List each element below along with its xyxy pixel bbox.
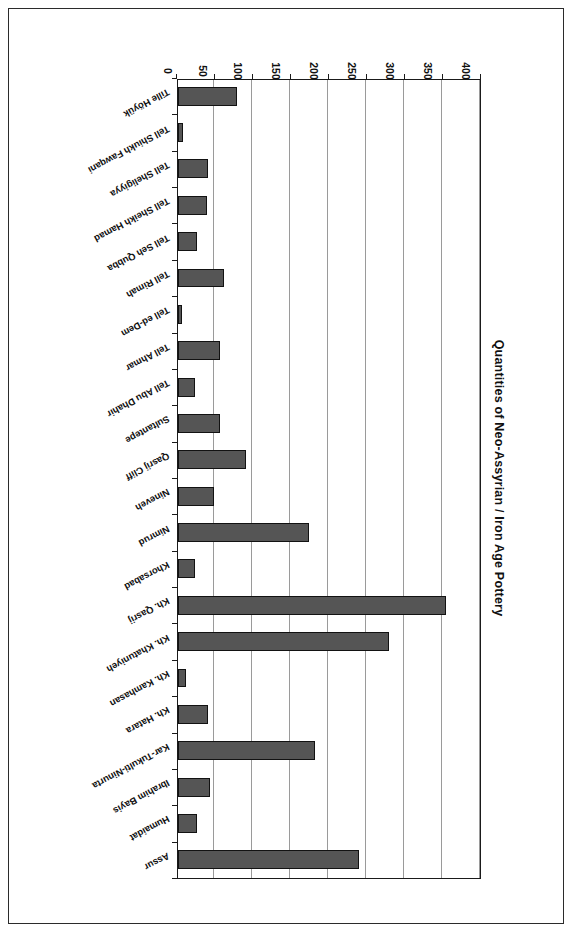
bar xyxy=(178,705,208,724)
bar xyxy=(178,159,208,178)
category-axis-tick xyxy=(172,260,177,261)
value-axis-tick-label: 350 xyxy=(422,62,434,80)
bar xyxy=(178,487,214,506)
category-axis-label: Assur xyxy=(143,850,172,872)
bar-row xyxy=(178,87,480,106)
category-axis-tick xyxy=(172,660,177,661)
bar-chart: Quantities of Neo-Assyrian / Iron Age Po… xyxy=(19,19,555,915)
category-axis-label: Humaidat xyxy=(128,814,171,844)
category-axis-label: Tell Rimah xyxy=(125,269,172,301)
category-axis-tick xyxy=(172,805,177,806)
value-axis-tick-label: 150 xyxy=(270,62,282,80)
bar xyxy=(178,378,195,397)
category-axis-label: Tell Ahmar xyxy=(124,341,172,373)
bars-layer xyxy=(178,80,480,878)
bar-row xyxy=(178,450,480,469)
value-axis-tick-label: 0 xyxy=(162,68,174,74)
bar xyxy=(178,414,220,433)
bar-row xyxy=(178,196,480,215)
category-axis-tick xyxy=(172,478,177,479)
category-axis-label: Tell Seh Qubba xyxy=(106,232,172,274)
category-axis-label: Tell ed-Dem xyxy=(119,305,171,340)
figure-rotator: Quantities of Neo-Assyrian / Iron Age Po… xyxy=(19,19,555,915)
bar-row xyxy=(178,596,480,615)
value-axis-tick xyxy=(214,74,215,79)
category-axis-label: Tille Höyük xyxy=(122,87,172,120)
category-axis-tick xyxy=(172,587,177,588)
category-axis-tick xyxy=(172,514,177,515)
bar xyxy=(178,341,220,360)
category-axis-label: Kh. Kamhasan xyxy=(108,669,171,710)
value-axis: 050100150200250300350400 xyxy=(177,33,481,79)
page-frame: Quantities of Neo-Assyrian / Iron Age Po… xyxy=(8,8,564,924)
bar-row xyxy=(178,487,480,506)
bar-row xyxy=(178,741,480,760)
bar xyxy=(178,741,315,760)
category-axis-label: Kh. Hatara xyxy=(124,705,171,737)
category-axis-tick xyxy=(172,151,177,152)
value-axis-tick xyxy=(404,74,405,79)
bar-row xyxy=(178,632,480,651)
value-axis-tick xyxy=(366,74,367,79)
value-axis-tick-label: 250 xyxy=(346,62,358,80)
category-axis-tick xyxy=(172,333,177,334)
bar-row xyxy=(178,269,480,288)
bar-row xyxy=(178,378,480,397)
plot-area xyxy=(177,79,481,879)
category-axis-tick xyxy=(172,223,177,224)
category-axis-label: Nineveh xyxy=(134,487,172,514)
category-axis-tick xyxy=(172,369,177,370)
category-axis-tick xyxy=(172,696,177,697)
category-axis-label: Qasrij Cliff xyxy=(124,450,172,482)
bar xyxy=(178,523,309,542)
category-axis-tick xyxy=(172,623,177,624)
bar-row xyxy=(178,814,480,833)
bar xyxy=(178,87,237,106)
category-axis-tick xyxy=(172,405,177,406)
value-axis-tick xyxy=(480,74,481,79)
category-axis-label: Sultantepe xyxy=(124,414,172,447)
bar-row xyxy=(178,523,480,542)
bar-row xyxy=(178,414,480,433)
bar xyxy=(178,778,210,797)
bar-row xyxy=(178,232,480,251)
category-axis-tick xyxy=(172,187,177,188)
value-axis-tick xyxy=(290,74,291,79)
category-axis-tick xyxy=(172,78,177,79)
bar xyxy=(178,269,224,288)
value-axis-tick-label: 50 xyxy=(197,65,209,77)
value-axis-tick-label: 400 xyxy=(460,62,472,80)
bar-row xyxy=(178,850,480,869)
category-axis-label: Kh. Qasrij xyxy=(127,596,172,627)
bar xyxy=(178,232,197,251)
bar xyxy=(178,669,186,688)
category-axis-tick xyxy=(172,442,177,443)
bar-row xyxy=(178,305,480,324)
bar-row xyxy=(178,778,480,797)
bar-row xyxy=(178,159,480,178)
category-axis-label: Ibrahim Bayis xyxy=(111,778,171,817)
category-axis-tick xyxy=(172,296,177,297)
category-axis-tick xyxy=(172,733,177,734)
category-axis-tick xyxy=(172,878,177,879)
bar xyxy=(178,196,207,215)
bar-row xyxy=(178,669,480,688)
bar-row xyxy=(178,705,480,724)
value-axis-tick xyxy=(252,74,253,79)
bar xyxy=(178,559,195,578)
bar xyxy=(178,814,197,833)
category-axis-tick xyxy=(172,551,177,552)
category-axis: AssurHumaidatIbrahim BayisKar-Tukulti-Ni… xyxy=(21,79,177,879)
bar-row xyxy=(178,559,480,578)
category-axis-tick xyxy=(172,114,177,115)
category-axis-tick xyxy=(172,842,177,843)
category-axis-label: Nimrud xyxy=(137,523,172,548)
category-axis-label: Tell Sheligiyya xyxy=(109,160,172,200)
value-axis-tick xyxy=(328,74,329,79)
bar xyxy=(178,305,182,324)
chart-title: Quantities of Neo-Assyrian / Iron Age Po… xyxy=(492,218,506,738)
bar xyxy=(178,596,446,615)
value-axis-tick-label: 100 xyxy=(232,62,244,80)
bar xyxy=(178,450,246,469)
bar-row xyxy=(178,123,480,142)
